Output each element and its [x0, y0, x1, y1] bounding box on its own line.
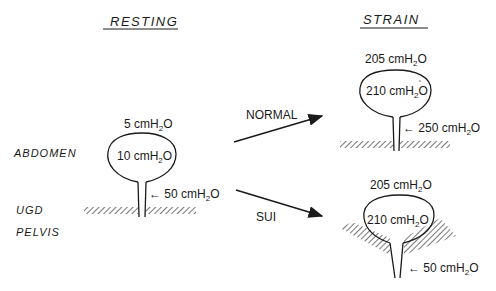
resting-bladder	[84, 133, 196, 217]
pelvic-floor-normal-right	[400, 141, 450, 148]
resting-urethral-pressure: ← 50 cmH2O	[149, 187, 219, 203]
resting-bladder-pressure: 10 cmH2O	[117, 149, 172, 165]
pelvic-floor-right	[146, 207, 196, 214]
pelvic-floor-left	[84, 207, 138, 214]
strain-sui-urethral-pressure: ← 50 cmH2O	[408, 261, 478, 277]
strain-sui-abdominal-pressure: 205 cmH2O	[370, 178, 432, 194]
strain-sui-bladder-pressure: 210 cmH2O	[367, 213, 429, 229]
normal-label: NORMAL	[246, 108, 298, 122]
strain-normal-bladder-pressure: 210 cmH2O	[366, 84, 428, 100]
pressure-transmission-diagram: RESTING STRAIN ABDOMEN UGD PELVIS 5 cmH2…	[0, 0, 496, 291]
sui-arrow	[236, 190, 322, 216]
strain-normal-bladder	[340, 70, 450, 151]
strain-title: STRAIN	[360, 12, 428, 28]
region-label-abdomen: ABDOMEN	[13, 147, 77, 159]
resting-abdominal-pressure: 5 cmH2O	[124, 117, 172, 133]
resting-title: RESTING	[103, 14, 178, 29]
region-label-pelvis: PELVIS	[16, 226, 60, 238]
svg-text:RESTING: RESTING	[110, 14, 178, 29]
pelvic-floor-normal-left	[340, 141, 393, 148]
region-label-ugd: UGD	[16, 204, 43, 216]
strain-normal-urethral-pressure: ← 250 cmH2O	[403, 121, 480, 137]
strain-normal-abdominal-pressure: 205 cmH2O	[365, 52, 427, 68]
sui-label: SUI	[256, 210, 276, 224]
svg-text:STRAIN: STRAIN	[363, 12, 420, 27]
